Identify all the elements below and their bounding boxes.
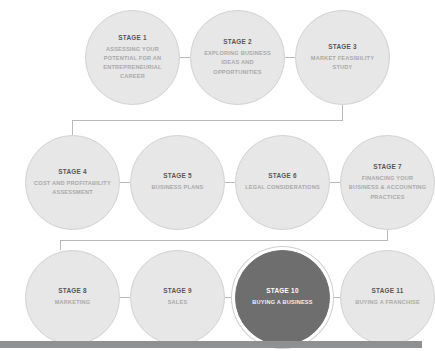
stage-node-9[interactable]: STAGE 9 SALES — [130, 250, 225, 345]
stage-title: MARKET FEASIBILITY STUDY — [303, 54, 382, 72]
stage-title: EXPLORING BUSINESS IDEAS AND OPPORTUNITI… — [198, 49, 277, 77]
stage-node-11[interactable]: STAGE 11 BUYING A FRANCHISE — [340, 250, 435, 345]
stage-node-6[interactable]: STAGE 6 LEGAL CONSIDERATIONS — [235, 135, 330, 230]
stage-title: MARKETING — [55, 298, 91, 307]
stage-title: COST AND PROFITABILITY ASSESSMENT — [33, 179, 112, 197]
stage-title: BUYING A BUSINESS — [252, 298, 312, 307]
stage-label: STAGE 1 — [118, 34, 147, 41]
stage-label: STAGE 7 — [373, 163, 402, 170]
stage-node-8[interactable]: STAGE 8 MARKETING — [25, 250, 120, 345]
stage-title: BUYING A FRANCHISE — [355, 298, 420, 307]
stage-title: SALES — [168, 298, 188, 307]
stage-label: STAGE 11 — [371, 287, 403, 294]
stage-label: STAGE 4 — [58, 168, 87, 175]
connector-stage3-stage4 — [73, 105, 343, 135]
stage-node-4[interactable]: STAGE 4 COST AND PROFITABILITY ASSESSMEN… — [25, 135, 120, 230]
stage-title: FINANCING YOUR BUSINESS & ACCOUNTING PRA… — [348, 174, 427, 202]
stage-title: ASSESSING YOUR POTENTIAL FOR AN ENTREPRE… — [93, 45, 172, 82]
stage-node-1[interactable]: STAGE 1 ASSESSING YOUR POTENTIAL FOR AN … — [85, 10, 180, 105]
stage-label: STAGE 3 — [328, 43, 357, 50]
stage-label: STAGE 5 — [163, 172, 192, 179]
stage-label: STAGE 6 — [268, 172, 297, 179]
stage-label: STAGE 8 — [58, 287, 87, 294]
stage-label: STAGE 9 — [163, 287, 192, 294]
stage-node-7[interactable]: STAGE 7 FINANCING YOUR BUSINESS & ACCOUN… — [340, 135, 435, 230]
stage-title: BUSINESS PLANS — [152, 183, 204, 192]
stage-node-2[interactable]: STAGE 2 EXPLORING BUSINESS IDEAS AND OPP… — [190, 10, 285, 105]
stage-label: STAGE 10 — [266, 287, 298, 294]
stage-node-5[interactable]: STAGE 5 BUSINESS PLANS — [130, 135, 225, 230]
stage-label: STAGE 2 — [223, 38, 252, 45]
connector-stage7-stage8 — [60, 230, 388, 250]
stage-title: LEGAL CONSIDERATIONS — [245, 183, 320, 192]
stage-node-10[interactable]: STAGE 10 BUYING A BUSINESS — [235, 250, 330, 345]
stage-node-3[interactable]: STAGE 3 MARKET FEASIBILITY STUDY — [295, 10, 390, 105]
bottom-band — [0, 341, 422, 348]
